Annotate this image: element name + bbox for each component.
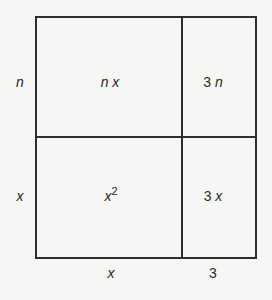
side-label-bottom-right: 3 — [209, 265, 217, 281]
cell-top-left-nx: n x — [101, 74, 120, 90]
side-label-left-top: n — [16, 74, 24, 90]
cell-top-right-coef: 3 — [203, 74, 215, 90]
area-model-diagram: n x x 3 n x 3 n x2 3 x — [0, 0, 272, 300]
cell-bottom-left-var: x — [104, 188, 111, 204]
cell-bottom-left-exponent: 2 — [111, 185, 117, 197]
cell-top-left-var: n x — [101, 74, 120, 90]
cell-top-right-var: n — [215, 74, 223, 90]
side-label-bottom-left: x — [108, 265, 115, 281]
cell-bottom-left-x-squared: x2 — [104, 188, 117, 204]
cell-top-right-3n: 3 n — [203, 74, 222, 90]
rect-bottom-edge — [35, 257, 257, 259]
cell-bottom-right-3x: 3 x — [204, 188, 223, 204]
cell-bottom-right-var: x — [215, 188, 222, 204]
horizontal-divider — [35, 136, 257, 138]
rect-top-edge — [35, 16, 257, 18]
cell-bottom-right-coef: 3 — [204, 188, 216, 204]
side-label-left-bottom: x — [17, 188, 24, 204]
